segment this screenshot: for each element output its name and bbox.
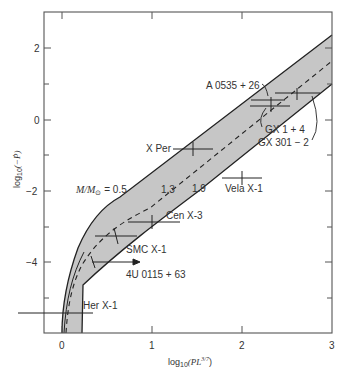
label-mass: M/M⊙ = 0.5	[75, 184, 127, 196]
x-tick-3: 3	[329, 340, 335, 351]
y-axis-title: log10(−Ṗ)	[12, 151, 23, 188]
label-gx301: GX 301 − 2	[258, 137, 309, 148]
x-tick-2: 2	[239, 340, 245, 351]
pulsar-spinup-chart: 2 0 −2 −4 0 1 2 3 log10(PL3/7) log10(−Ṗ)	[0, 0, 346, 370]
x-tick-1: 1	[149, 340, 155, 351]
label-mass-1.9: 1.9	[192, 183, 206, 194]
label-4u0115: 4U 0115 + 63	[126, 269, 186, 280]
bottom-ticks	[62, 326, 242, 333]
label-mass-1.3: 1.3	[161, 184, 175, 195]
top-ticks	[62, 12, 242, 19]
label-smc-x1: SMC X-1	[126, 244, 167, 255]
label-vela-x1: Vela X-1	[225, 183, 263, 194]
label-x-per: X Per	[146, 143, 172, 154]
label-a0535: A 0535 + 26	[206, 80, 260, 91]
x-tick-0: 0	[59, 340, 65, 351]
y-tick-2: 2	[34, 43, 40, 54]
label-her-x1: Her X-1	[83, 300, 118, 311]
label-gx14: GX 1 + 4	[265, 124, 305, 135]
y-tick-0: 0	[34, 115, 40, 126]
left-ticks	[44, 48, 51, 298]
y-tick-m2: −2	[26, 186, 38, 197]
label-cen-x3: Cen X-3	[166, 210, 203, 221]
x-axis-title: log10(PL3/7)	[168, 356, 212, 368]
y-tick-m4: −4	[26, 257, 38, 268]
